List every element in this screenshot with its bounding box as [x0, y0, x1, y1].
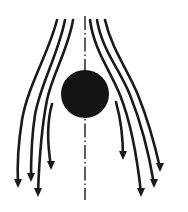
arrowhead-icon [47, 161, 55, 170]
streamline-right-outer [105, 20, 160, 168]
flow-diagram-canvas [0, 0, 188, 212]
arrowhead-icon [150, 179, 158, 188]
arrowhead-icon [119, 151, 127, 160]
streamline-right-wake [116, 102, 123, 156]
arrowhead-icon [137, 188, 145, 197]
flow-diagram: Flow around a sphere (streamlines) [0, 0, 188, 212]
arrowhead-icon [156, 163, 164, 172]
arrowhead-icon [27, 173, 35, 182]
arrowhead-icon [14, 179, 22, 188]
arrowhead-icon [34, 188, 42, 197]
sphere-body [61, 70, 109, 118]
streamline-left-wake [48, 104, 52, 166]
